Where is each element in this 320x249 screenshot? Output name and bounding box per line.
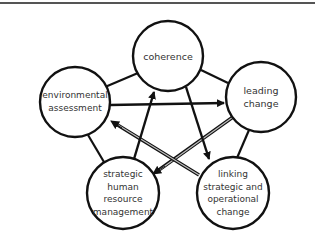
label-leading-change: leading change (226, 62, 296, 132)
label-hrm: strategic human resource management (87, 157, 159, 229)
arrow-hrm-to-coherence (134, 92, 154, 159)
label-coherence: coherence (133, 21, 203, 91)
arrow-environmental-to-leading (110, 103, 224, 105)
label-linking: linking strategic and operational change (197, 157, 269, 229)
line-coherence-leading (201, 70, 228, 83)
black-arrows (110, 87, 224, 159)
label-environmental: environmental assessment (38, 67, 112, 137)
line-leading-linking (237, 130, 249, 158)
gray-arrow-linking-to-environmental-head (111, 121, 122, 128)
